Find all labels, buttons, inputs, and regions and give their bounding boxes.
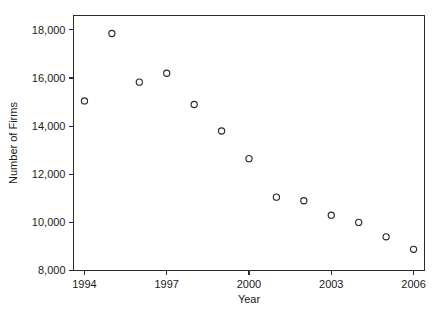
x-tick-label: 2000 [237,278,261,290]
y-tick-label: 8,000 [38,264,66,276]
y-tick-label: 10,000 [32,216,66,228]
y-axis-title: Number of Firms [7,102,19,184]
y-tick-label: 12,000 [32,168,66,180]
y-tick-label: 18,000 [32,24,66,36]
x-tick-label: 1997 [154,278,178,290]
y-tick-label: 14,000 [32,120,66,132]
plot-background [0,0,445,312]
x-tick-label: 2006 [401,278,425,290]
scatter-plot: 8,00010,00012,00014,00016,00018,000 1994… [0,0,445,312]
y-tick-label: 16,000 [32,72,66,84]
chart-figure: 8,00010,00012,00014,00016,00018,000 1994… [0,0,445,312]
x-tick-label: 2003 [319,278,343,290]
x-axis-title: Year [238,293,261,305]
x-tick-label: 1994 [72,278,96,290]
